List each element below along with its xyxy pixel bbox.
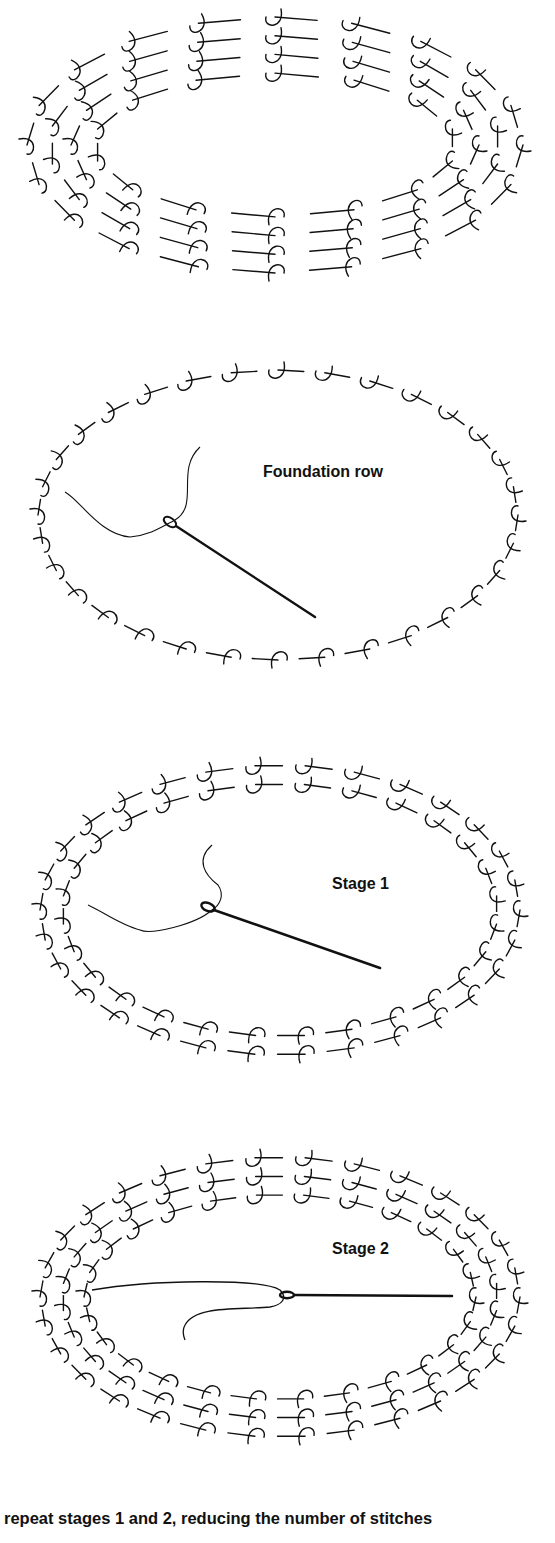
needle-and-thread xyxy=(92,1282,452,1340)
stage-1-illustration xyxy=(0,730,555,1090)
panel-stage-2: Stage 2 xyxy=(0,1120,555,1480)
needle-icon xyxy=(214,910,380,968)
panel-completed xyxy=(0,0,555,300)
stitch-loops xyxy=(19,9,531,281)
stitch-loops xyxy=(32,757,528,1063)
instruction-caption: repeat stages 1 and 2, reducing the numb… xyxy=(4,1509,432,1528)
panel-foundation-row: Foundation row xyxy=(0,330,555,700)
panel-stage-1: Stage 1 xyxy=(0,730,555,1090)
stitch-loops xyxy=(30,362,526,668)
needle-and-thread xyxy=(88,845,380,968)
needle-icon xyxy=(294,1295,452,1296)
foundation-row-illustration xyxy=(0,330,555,700)
stage-2-illustration xyxy=(0,1120,555,1480)
stage-2-label: Stage 2 xyxy=(332,1240,389,1258)
stage-1-label: Stage 1 xyxy=(332,875,389,893)
needle-icon xyxy=(176,526,315,617)
foundation-row-label: Foundation row xyxy=(263,463,383,481)
completed-coil-illustration xyxy=(0,0,555,300)
